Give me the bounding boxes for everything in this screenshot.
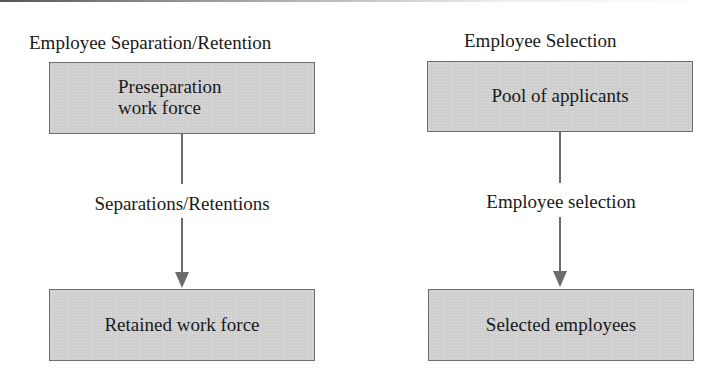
preseparation-work-force-box: Preseparation work force [49, 62, 315, 134]
employee-selection-title: Employee Selection [464, 31, 616, 50]
box-label-line1: Preseparation [118, 77, 221, 98]
pool-of-applicants-box: Pool of applicants [427, 61, 693, 132]
top-border-bar [0, 0, 722, 2]
box-label: Retained work force [104, 315, 259, 336]
connector-line-top [559, 131, 561, 183]
box-label: Pool of applicants [491, 86, 628, 107]
selected-employees-box: Selected employees [428, 289, 694, 361]
connector-line-top [181, 133, 183, 184]
employee-selection-label: Employee selection [486, 192, 635, 211]
arrow-down-icon [553, 271, 567, 287]
arrow-down-icon [175, 272, 189, 288]
retained-work-force-box: Retained work force [49, 289, 315, 361]
separations-retentions-label: Separations/Retentions [94, 194, 269, 213]
separation-retention-title: Employee Separation/Retention [29, 33, 271, 52]
box-label: Selected employees [486, 315, 636, 336]
box-label-line2: work force [118, 98, 201, 119]
connector-line-bottom [559, 217, 561, 273]
connector-line-bottom [181, 218, 183, 274]
